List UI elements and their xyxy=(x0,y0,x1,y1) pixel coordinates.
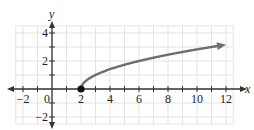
x-tick-label: 8 xyxy=(165,92,171,106)
grid-lines xyxy=(16,26,234,124)
y-tick-label: 4 xyxy=(42,26,48,40)
x-tick-label: 4 xyxy=(107,92,113,106)
y-axis-down-arrow-icon xyxy=(49,122,55,129)
x-tick-label: 10 xyxy=(191,92,203,106)
x-tick-label: 6 xyxy=(136,92,142,106)
x-tick-label: 12 xyxy=(220,92,232,106)
x-tick-label: 0 xyxy=(44,92,50,106)
function-graph: −2024681012−224 x y xyxy=(0,0,254,130)
x-axis-label: x xyxy=(244,82,251,96)
y-axis-up-arrow-icon xyxy=(49,21,55,28)
curve-arrowhead-icon xyxy=(216,42,226,50)
y-tick-label: 2 xyxy=(42,54,48,68)
x-tick-label: 2 xyxy=(78,92,84,106)
x-tick-label: −2 xyxy=(17,92,30,106)
y-tick-label: −2 xyxy=(35,110,48,124)
sqrt-curve xyxy=(81,46,215,89)
curve xyxy=(77,42,226,92)
y-axis-label: y xyxy=(48,7,55,21)
start-point-dot xyxy=(77,85,84,92)
x-axis-left-arrow-icon xyxy=(7,86,14,92)
